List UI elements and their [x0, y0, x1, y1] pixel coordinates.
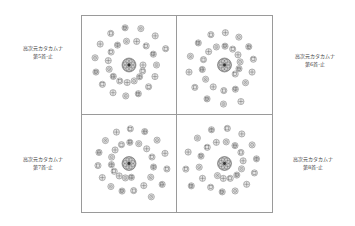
spiral-glyph: [200, 57, 206, 63]
spiral-glyph: [108, 49, 114, 55]
spiral-glyph: [194, 135, 200, 141]
spiral-glyph: [208, 32, 214, 38]
spiral-glyph: [110, 73, 116, 79]
spiral-glyph: [148, 174, 154, 180]
spiral-glyph: [110, 90, 116, 96]
spiral-glyph: [124, 79, 130, 85]
label-subtitle: 第5首-止: [8, 52, 78, 60]
spiral-panel-6: [177, 16, 272, 114]
spiral-glyph: [223, 139, 229, 145]
spiral-glyph: [108, 30, 114, 36]
spiral-glyph: [219, 189, 225, 195]
spiral-glyph: [135, 91, 141, 97]
label-title: 高次元カタカムナ: [8, 44, 78, 52]
spiral-glyph: [154, 137, 160, 143]
spiral-glyph: [208, 127, 214, 133]
spiral-glyph: [127, 126, 133, 132]
spiral-glyph: [251, 170, 257, 176]
spiral-glyph: [99, 174, 105, 180]
spiral-glyph: [183, 166, 189, 172]
spiral-glyph: [131, 187, 137, 193]
spiral-glyph: [123, 93, 129, 99]
spiral-glyph: [250, 56, 256, 62]
spiral-glyph: [220, 101, 226, 107]
spiral-glyph: [96, 149, 102, 155]
spiral-glyph: [204, 144, 210, 150]
label-title: 高次元カタカムナ: [278, 155, 348, 163]
spiral-glyph: [238, 149, 244, 155]
spiral-glyph: [234, 172, 240, 178]
spiral-glyph: [162, 150, 168, 156]
spiral-glyph: [152, 33, 158, 39]
label-title: 高次元カタカムナ: [8, 155, 78, 163]
spiral-glyph: [227, 175, 233, 181]
spiral-glyph: [134, 38, 140, 44]
spiral-glyph: [113, 129, 119, 135]
spiral-glyph: [232, 71, 238, 77]
spiral-glyph: [213, 139, 219, 145]
spiral-glyph: [230, 46, 236, 52]
spiral-glyph: [122, 175, 128, 181]
spiral-glyph: [187, 53, 193, 59]
spiral-glyph: [140, 62, 146, 68]
spiral-glyph: [198, 153, 204, 159]
spiral-glyph: [235, 52, 241, 58]
spiral-glyph: [232, 142, 238, 148]
spiral-glyph: [188, 183, 194, 189]
spiral-glyph: [206, 49, 212, 55]
spiral-glyph: [253, 156, 259, 162]
spiral-glyph: [246, 44, 252, 50]
spiral-glyph: [185, 149, 191, 155]
label-title: 高次元カタカムナ: [280, 52, 350, 60]
spiral-glyph: [249, 69, 255, 75]
label-subtitle: 第7首-止: [8, 163, 78, 171]
spiral-glyph: [131, 78, 137, 84]
spiral-glyph: [114, 42, 120, 48]
spiral-glyph: [240, 158, 246, 164]
spiral-glyph: [236, 66, 242, 72]
spiral-glyph: [146, 84, 152, 90]
spiral-glyph: [99, 81, 105, 87]
spiral-glyph: [140, 68, 146, 74]
center-glyph: [218, 58, 232, 72]
spiral-glyph: [186, 69, 192, 75]
spiral-glyph: [242, 80, 248, 86]
spiral-panel-7: [82, 115, 176, 212]
spiral-glyph: [127, 139, 133, 145]
spiral-glyph: [150, 51, 156, 57]
spiral-glyph: [213, 44, 219, 50]
spiral-glyph: [136, 74, 142, 80]
spiral-glyph: [222, 30, 228, 36]
spiral-glyph: [222, 43, 228, 49]
spiral-glyph: [221, 87, 227, 93]
spiral-glyph: [111, 168, 117, 174]
center-glyph: [122, 58, 136, 72]
spiral-glyph: [163, 46, 169, 52]
spiral-glyph: [106, 66, 112, 72]
spiral-glyph: [108, 183, 114, 189]
spiral-glyph: [196, 164, 202, 170]
spiral-glyph: [150, 164, 156, 170]
spiral-glyph: [153, 62, 159, 68]
spiral-glyph: [102, 137, 108, 143]
spiral-glyph: [122, 25, 128, 31]
label-panel-8: 高次元カタカムナ 第8首-止: [278, 155, 348, 171]
spiral-glyph: [143, 43, 149, 49]
spiral-glyph: [220, 175, 226, 181]
spiral-glyph: [152, 73, 158, 79]
spiral-glyph: [249, 142, 255, 148]
spiral-glyph: [117, 78, 123, 84]
spiral-glyph: [164, 166, 170, 172]
spiral-glyph: [92, 55, 98, 61]
spiral-glyph: [214, 172, 220, 178]
center-glyph: [218, 157, 232, 171]
label-panel-7: 高次元カタカムナ 第7首-止: [8, 155, 78, 171]
spiral-glyph: [203, 76, 209, 82]
spiral-glyph: [204, 96, 210, 102]
label-panel-6: 高次元カタカムナ 第6首-止: [280, 52, 350, 68]
spiral-panel-8: [177, 115, 272, 212]
spiral-glyph: [119, 188, 125, 194]
spiral-glyph: [123, 38, 129, 44]
spiral-glyph: [118, 142, 124, 148]
label-subtitle: 第8首-止: [278, 163, 348, 171]
